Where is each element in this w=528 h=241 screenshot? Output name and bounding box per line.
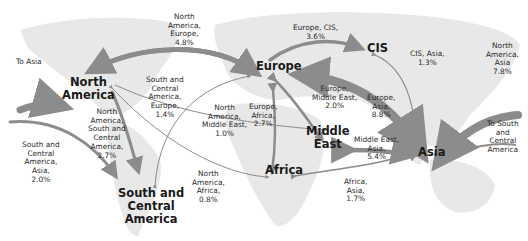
flow-label-sca-eu: South and Central America, Europe, 1.4% [146, 76, 184, 120]
flow-label-sca-asia: South and Central America, Asia, 2.0% [22, 141, 60, 185]
flow-label-eu-me: Europe, Middle East, 2.0% [312, 85, 357, 111]
flow-label-cis-asia: CIS, Asia, 1.3% [410, 50, 445, 67]
flow-label-na-asia: North America, Asia 7.8% [486, 42, 519, 77]
edge-label-to-sca: To South and Central America [487, 120, 519, 155]
edge-label-to-asia: To Asia [16, 58, 42, 67]
region-africa: Africa [265, 164, 303, 177]
flow-label-eu-asia: Europe, Asia, 8.8% [367, 94, 395, 120]
region-asia: Asia [418, 146, 445, 159]
region-cis: CIS [367, 42, 388, 55]
flow-label-eu-cis: Europe, CIS, 3.6% [293, 24, 338, 41]
region-north-america: North America [62, 76, 115, 102]
region-south-central-america: South and Central America [118, 187, 184, 226]
flow-label-na-eu: North America, Europe, 4.8% [168, 13, 201, 48]
flow-label-na-af: North America, Africa, 0.8% [192, 170, 225, 205]
flow-label-na-me: North America, Middle East, 1.0% [202, 104, 247, 139]
flow-label-af-asia: Africa, Asia, 1.7% [344, 178, 367, 204]
region-europe: Europe [256, 60, 302, 73]
trade-flow-map: North America South and Central America … [0, 0, 528, 241]
flow-label-eu-af: Europe, Africa, 2.7% [249, 103, 277, 129]
flow-label-me-asia: Middle East, Asia, 5.4% [354, 136, 399, 162]
region-middle-east: Middle East [306, 125, 350, 151]
arrow-to-asia [20, 104, 62, 110]
flow-label-na-sca: North America, South and Central America… [88, 108, 126, 160]
